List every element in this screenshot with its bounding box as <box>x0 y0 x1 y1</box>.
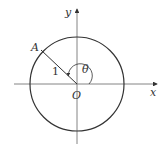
x-axis-label: x <box>150 86 157 99</box>
diagram-canvas: y x O A 1 θ <box>0 0 162 154</box>
y-axis-label: y <box>64 6 72 19</box>
unit-circle-diagram: y x O A 1 θ <box>0 0 162 154</box>
radius-label: 1 <box>52 65 59 78</box>
angle-label: θ <box>82 63 89 76</box>
origin-label: O <box>72 89 81 102</box>
point-a-label: A <box>30 41 39 54</box>
angle-arc <box>68 64 92 84</box>
